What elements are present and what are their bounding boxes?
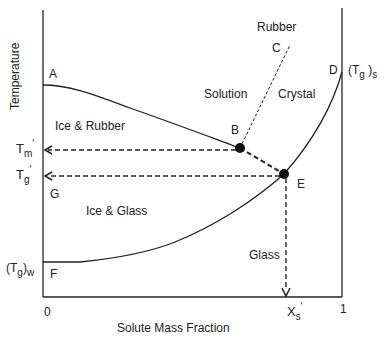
xs-prime-marker: Xs' xyxy=(287,305,303,318)
region-rubber: Rubber xyxy=(257,21,296,33)
tm-prime-marker: Tm' xyxy=(16,142,34,155)
state-diagram xyxy=(0,0,387,346)
point-E-label: E xyxy=(297,178,305,190)
x-axis-label: Solute Mass Fraction xyxy=(117,322,230,334)
tg-prime-marker: Tg' xyxy=(16,168,31,181)
point-E-marker xyxy=(279,169,289,179)
region-glass: Glass xyxy=(249,249,280,261)
point-C-label: C xyxy=(272,42,281,54)
x-tick-1: 1 xyxy=(340,303,347,315)
region-ice-glass: Ice & Glass xyxy=(86,205,147,217)
point-G-label: G xyxy=(50,188,59,200)
arrow-xs-icon xyxy=(282,288,290,296)
region-solution: Solution xyxy=(204,88,247,100)
region-crystal: Crystal xyxy=(278,88,315,100)
point-B-label: B xyxy=(231,124,239,136)
tg-solute-marker: (Tg )s xyxy=(348,64,377,76)
point-A-label: A xyxy=(49,68,57,80)
line-B-E xyxy=(240,148,284,174)
x-tick-0: 0 xyxy=(44,306,51,318)
point-D-label: D xyxy=(329,64,338,76)
tg-water-marker: (Tg)w xyxy=(6,262,34,274)
arrow-tg-icon xyxy=(45,172,52,180)
point-F-label: F xyxy=(50,268,57,280)
y-axis-label: Temperature xyxy=(8,43,22,110)
region-ice-rubber: Ice & Rubber xyxy=(55,120,125,132)
curve-F-E xyxy=(43,174,284,262)
point-B-marker xyxy=(235,143,245,153)
